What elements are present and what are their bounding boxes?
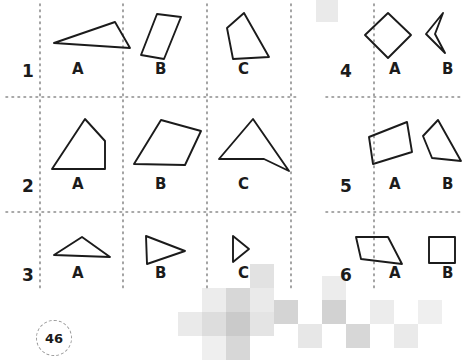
cell-label-2B: B — [155, 177, 166, 192]
row-number-1: 1 — [22, 63, 34, 80]
cell-label-3B: B — [155, 266, 166, 281]
cell-label-3C: C — [238, 266, 249, 281]
cell-label-1B: B — [155, 62, 166, 77]
cell-label-3A: A — [72, 266, 84, 281]
cell-label-2C: C — [238, 177, 249, 192]
cell-label-4A: A — [389, 62, 401, 77]
row-number-4: 4 — [340, 63, 352, 80]
cell-label-1C: C — [238, 62, 249, 77]
cell-label-2A: A — [72, 177, 84, 192]
cell-label-6A: A — [389, 266, 401, 281]
worksheet-page: 1ABC4AB2ABC5AB3ABC6AB 46 — [0, 0, 463, 361]
row-number-3: 3 — [22, 267, 34, 284]
page-number: 46 — [36, 320, 72, 356]
cell-label-4B: B — [442, 62, 453, 77]
cell-label-5B: B — [442, 177, 453, 192]
row-number-2: 2 — [22, 178, 34, 195]
page-number-text: 46 — [36, 320, 72, 356]
row-number-6: 6 — [340, 267, 352, 284]
row-number-5: 5 — [340, 178, 352, 195]
labels-layer: 1ABC4AB2ABC5AB3ABC6AB — [0, 0, 463, 361]
cell-label-1A: A — [72, 62, 84, 77]
cell-label-5A: A — [389, 177, 401, 192]
cell-label-6B: B — [442, 266, 453, 281]
